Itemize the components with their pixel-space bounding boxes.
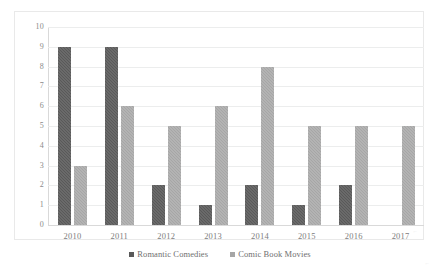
bar-2016-comic-book-movies[interactable] (355, 126, 368, 225)
x-tick-label-2010: 2010 (49, 228, 96, 244)
x-tick-label-2016: 2016 (330, 228, 377, 244)
bar-2016-romantic-comedies[interactable] (339, 185, 352, 225)
bar-group-2014 (237, 27, 284, 225)
chart-frame: 109876543210 201020112012201320142015201… (14, 11, 424, 240)
y-tick-label: 9 (18, 43, 44, 51)
bar-group-2010 (49, 27, 96, 225)
bars (330, 27, 377, 225)
legend-swatch-icon (129, 252, 134, 257)
bar-group-2011 (96, 27, 143, 225)
bar-2010-comic-book-movies[interactable] (74, 166, 87, 225)
y-tick-label: 8 (18, 63, 44, 71)
page-corner-mark-icon: ⌐ (426, 260, 429, 266)
y-tick-label: 3 (18, 162, 44, 170)
bar-2014-comic-book-movies[interactable] (261, 67, 274, 225)
legend-item-comic-book-movies[interactable]: Comic Book Movies (230, 250, 311, 259)
bar-groups (49, 27, 424, 225)
bars (49, 27, 96, 225)
bar-2010-romantic-comedies[interactable] (58, 47, 71, 225)
bar-2013-comic-book-movies[interactable] (215, 106, 228, 225)
bars (377, 27, 424, 225)
legend-swatch-icon (230, 252, 235, 257)
value-axis: 109876543210 (15, 27, 44, 225)
bar-2012-comic-book-movies[interactable] (168, 126, 181, 225)
y-tick-label: 5 (18, 122, 44, 130)
category-axis: 20102011201220132014201520162017 (49, 228, 424, 244)
bar-group-2016 (330, 27, 377, 225)
bars (143, 27, 190, 225)
y-tick-label: 6 (18, 102, 44, 110)
bar-group-2017 (377, 27, 424, 225)
x-tick-label-2014: 2014 (237, 228, 284, 244)
x-tick-label-2011: 2011 (96, 228, 143, 244)
bar-group-2012 (143, 27, 190, 225)
chart-legend: Romantic ComediesComic Book Movies (15, 250, 425, 259)
bar-group-2015 (283, 27, 330, 225)
bar-2015-comic-book-movies[interactable] (308, 126, 321, 225)
x-tick-label-2012: 2012 (143, 228, 190, 244)
y-tick-label: 10 (18, 23, 44, 31)
bars (283, 27, 330, 225)
bar-2017-comic-book-movies[interactable] (402, 126, 415, 225)
bar-2012-romantic-comedies[interactable] (152, 185, 165, 225)
bars (96, 27, 143, 225)
bar-group-2013 (190, 27, 237, 225)
legend-label: Comic Book Movies (238, 250, 311, 259)
bar-2011-comic-book-movies[interactable] (121, 106, 134, 225)
bars (190, 27, 237, 225)
bar-2011-romantic-comedies[interactable] (105, 47, 118, 225)
y-tick-label: 4 (18, 142, 44, 150)
bar-2014-romantic-comedies[interactable] (245, 185, 258, 225)
y-tick-label: 0 (18, 221, 44, 229)
x-tick-label-2013: 2013 (190, 228, 237, 244)
axis-baseline (48, 225, 424, 226)
corner-mark-icon: ⌐ (414, 228, 417, 234)
legend-label: Romantic Comedies (137, 250, 208, 259)
y-tick-label: 7 (18, 82, 44, 90)
legend-item-romantic-comedies[interactable]: Romantic Comedies (129, 250, 208, 259)
x-tick-label-2015: 2015 (283, 228, 330, 244)
bar-2015-romantic-comedies[interactable] (292, 205, 305, 225)
y-tick-label: 2 (18, 181, 44, 189)
bars (237, 27, 284, 225)
y-tick-label: 1 (18, 201, 44, 209)
bar-2013-romantic-comedies[interactable] (199, 205, 212, 225)
